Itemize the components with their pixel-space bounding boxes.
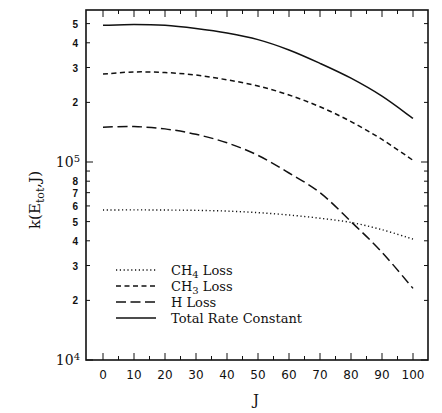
x-tick-label: 80 [343,368,358,382]
y-tick-label: 4 [72,236,78,247]
series-h-loss [103,126,413,288]
y-tick-label: 2 [72,295,78,306]
y-axis-title: k(Etot,J) [26,171,47,229]
legend: CH4 LossCH3 LossH LossTotal Rate Constan… [116,263,303,326]
y-tick-label: 6 [72,201,78,212]
x-tick-label: 70 [312,368,327,382]
legend-label: CH4 Loss [171,263,233,280]
legend-label: Total Rate Constant [171,311,303,326]
series-ch4-loss [103,210,413,239]
y-tick-label: 5 [72,19,78,30]
y-tick-label: 3 [72,63,78,74]
x-tick-label: 10 [126,368,141,382]
y-tick-label: 4 [72,38,78,49]
y-tick-label: 7 [72,188,78,199]
x-tick-label: 50 [250,368,265,382]
y-tick-label: 105 [56,153,80,170]
series-lines [103,24,413,288]
x-tick-label: 40 [219,368,234,382]
plot-frame [86,10,428,360]
chart: 10423456781052345 0102030405060708090100… [0,0,442,413]
y-tick-label: 104 [56,351,80,368]
legend-label: CH3 Loss [171,279,233,296]
legend-label: H Loss [171,295,216,310]
plot-area [86,10,428,360]
x-tick-label: 20 [157,368,172,382]
x-tick-label: 30 [188,368,203,382]
x-tick-label: 0 [99,368,107,382]
y-tick-label: 8 [72,176,78,187]
y-tick-label: 3 [72,261,78,272]
y-tick-label: 5 [72,217,78,228]
x-axis: 0102030405060708090100 [99,10,424,382]
x-tick-label: 90 [374,368,389,382]
series-ch3-loss [103,72,413,160]
y-tick-label: 2 [72,97,78,108]
x-axis-title: J [251,391,259,409]
x-tick-label: 100 [402,368,425,382]
x-tick-label: 60 [281,368,296,382]
